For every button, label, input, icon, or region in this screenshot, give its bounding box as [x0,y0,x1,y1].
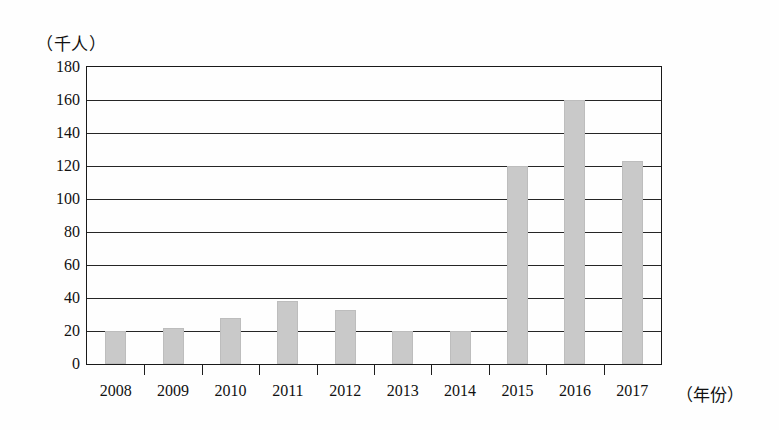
x-axis-tick-label-2017: 2017 [616,382,648,400]
x-axis-unit-label: （年份） [676,381,744,406]
x-axis-tick-label-2008: 2008 [100,382,132,400]
y-axis-tick-label: 60 [64,257,80,273]
x-axis-tick-mark [317,364,318,375]
x-axis-tick-mark [259,364,260,375]
y-axis-tick-label: 40 [64,290,80,306]
x-axis-tick-label-2014: 2014 [444,382,476,400]
bar-2010 [220,318,241,364]
x-axis-tick-label-2013: 2013 [387,382,419,400]
x-axis-tick-label-2012: 2012 [329,382,361,400]
x-axis-tick-mark [431,364,432,375]
bar-chart-figure: （千人） 020406080100120140160180 2008200920… [0,0,779,430]
bar-2015 [507,166,528,364]
x-axis-tick-mark [374,364,375,375]
x-axis-tick-mark [489,364,490,375]
plot-area: 020406080100120140160180 200820092010201… [86,66,662,365]
bar-2008 [105,331,126,364]
bar-2017 [622,161,643,364]
bar-2016 [564,100,585,364]
x-axis-tick-mark [144,364,145,375]
x-axis-tick-label-2015: 2015 [502,382,534,400]
x-axis-tick-label-2011: 2011 [272,382,303,400]
bar-2013 [392,331,413,364]
x-axis-tick-mark [604,364,605,375]
y-axis-tick-label: 140 [56,125,80,141]
x-axis-tick-mark [202,364,203,375]
bar-2012 [335,310,356,364]
bar-2009 [163,328,184,364]
y-axis-unit-label: （千人） [36,30,106,55]
y-axis-tick-label: 20 [64,323,80,339]
x-axis-tick-label-2009: 2009 [157,382,189,400]
bar-2011 [277,301,298,364]
bar-2014 [450,331,471,364]
x-axis-tick-label-2010: 2010 [215,382,247,400]
x-axis-tick-mark [546,364,547,375]
y-axis-tick-label: 0 [72,356,80,372]
x-axis-tick-label-2016: 2016 [559,382,591,400]
y-axis-tick-label: 180 [56,59,80,75]
y-axis-tick-label: 100 [56,191,80,207]
y-axis-tick-label: 120 [56,158,80,174]
y-axis-tick-label: 160 [56,92,80,108]
y-axis-tick-label: 80 [64,224,80,240]
